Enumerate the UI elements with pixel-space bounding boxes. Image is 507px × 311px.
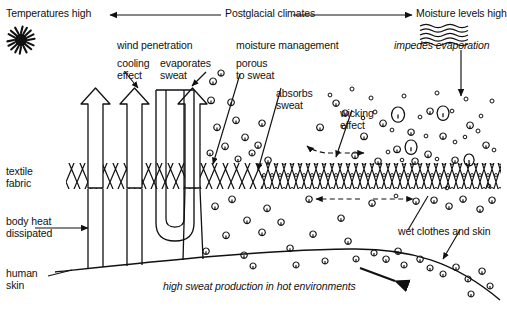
- axis-label-center: Postglacial climates: [225, 8, 315, 20]
- sun-icon: [7, 27, 34, 54]
- leader-porous-to-sweat: [213, 74, 240, 164]
- axis-label-left: Temperatures high: [6, 8, 91, 20]
- wicking-arrow-left-top: [307, 146, 325, 153]
- label-wind-penetration: wind penetration: [117, 40, 192, 52]
- airflow-shafts-lower: [88, 189, 203, 268]
- leader-high-sweat: [360, 268, 395, 281]
- label-wet-clothes-and-skin: wet clothes and skin: [398, 226, 491, 238]
- label-porous-to-sweat: porous to sweat: [236, 58, 274, 81]
- label-impedes-evaporation: impedes evaporation: [394, 40, 490, 52]
- label-moisture-management: moisture management: [236, 40, 339, 52]
- droplet-group-mid: [207, 70, 271, 164]
- label-wicking-effect: wicking effect: [340, 108, 374, 131]
- label-high-sweat-production: high sweat production in hot environment…: [163, 281, 356, 293]
- label-human-skin: human skin: [6, 268, 38, 291]
- label-cooling-effect: cooling effect: [117, 58, 150, 81]
- label-body-heat-dissipated: body heat dissipated: [6, 216, 52, 239]
- label-textile-fabric: textile fabric: [6, 166, 33, 189]
- axis-label-right: Moisture levels high: [416, 8, 507, 20]
- label-absorbs-sweat: absorbs sweat: [276, 88, 313, 111]
- label-evaporates-sweat: evaporates sweat: [160, 58, 211, 81]
